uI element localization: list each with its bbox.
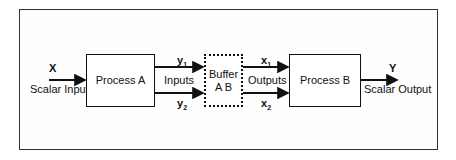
x2-variable: x2 bbox=[261, 97, 271, 111]
buffer-label-line1: Buffer bbox=[209, 68, 238, 81]
y2-variable: y2 bbox=[177, 97, 187, 111]
process-b-label: Process B bbox=[300, 74, 350, 87]
output-variable: Y bbox=[389, 62, 396, 74]
process-a-box: Process A bbox=[86, 54, 155, 107]
process-a-label: Process A bbox=[96, 74, 146, 87]
inputs-label: Inputs bbox=[164, 74, 194, 86]
output-label: Scalar Output bbox=[364, 83, 431, 95]
buffer-label-line2: A B bbox=[215, 81, 232, 94]
x1-variable: x1 bbox=[261, 54, 271, 68]
input-variable: X bbox=[49, 62, 56, 74]
buffer-box: Buffer A B bbox=[204, 54, 243, 107]
y1-variable: y1 bbox=[177, 54, 187, 68]
outputs-label: Outputs bbox=[248, 74, 287, 86]
input-label: Scalar Input bbox=[30, 83, 89, 95]
process-b-box: Process B bbox=[289, 54, 361, 107]
